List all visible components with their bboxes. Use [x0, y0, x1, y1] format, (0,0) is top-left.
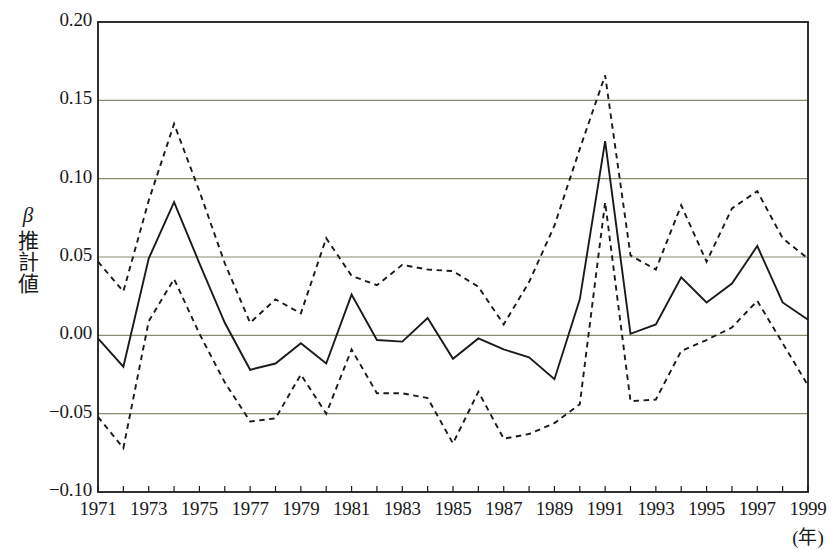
data-series-group: [98, 75, 808, 448]
y-tick-label: 0.00: [26, 322, 92, 344]
y-tick-label: 0.10: [26, 166, 92, 188]
y-tick-label: 0.20: [26, 9, 92, 31]
y-tick-label: −0.05: [26, 401, 92, 423]
x-axis-unit-label: (年): [778, 522, 831, 549]
y-tick-label: 0.05: [26, 244, 92, 266]
series-lower-confidence-bound: [98, 202, 808, 448]
gridlines: [98, 100, 808, 413]
x-tick-label: 1999: [778, 498, 831, 520]
y-tick-label: 0.15: [26, 87, 92, 109]
series-upper-confidence-bound: [98, 75, 808, 324]
y-axis-tick-labels: 0.200.150.100.050.00−0.05−0.10: [20, 0, 92, 549]
